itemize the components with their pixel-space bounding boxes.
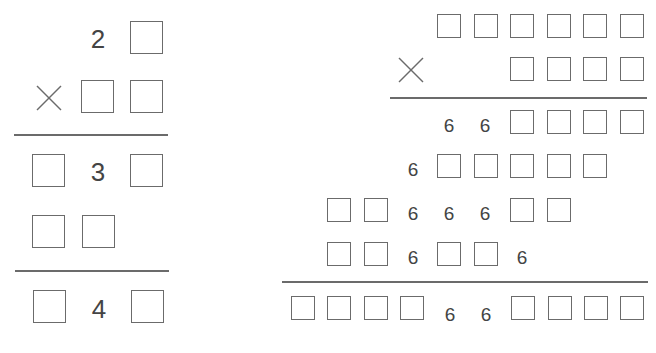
digit-6: 6 xyxy=(403,204,423,223)
digit-6: 6 xyxy=(475,204,495,223)
answer-box[interactable] xyxy=(327,242,351,266)
answer-box[interactable] xyxy=(437,242,461,266)
digit-2: 2 xyxy=(86,26,110,52)
answer-box[interactable] xyxy=(81,80,114,113)
answer-box[interactable] xyxy=(510,154,534,178)
answer-box[interactable] xyxy=(583,110,607,134)
answer-box[interactable] xyxy=(510,57,534,81)
answer-box[interactable] xyxy=(437,154,461,178)
digit-6: 6 xyxy=(476,305,496,324)
digit-6: 6 xyxy=(440,305,460,324)
answer-box[interactable] xyxy=(437,14,461,38)
digit-6: 6 xyxy=(512,248,532,267)
times-icon xyxy=(35,84,63,112)
answer-box[interactable] xyxy=(291,296,315,320)
answer-box[interactable] xyxy=(364,296,388,320)
answer-box[interactable] xyxy=(400,296,424,320)
digit-6: 6 xyxy=(439,204,459,223)
times-icon xyxy=(397,57,425,83)
answer-box[interactable] xyxy=(32,154,65,187)
divider-line xyxy=(15,270,169,272)
answer-box[interactable] xyxy=(547,110,571,134)
answer-box[interactable] xyxy=(131,290,164,323)
answer-box[interactable] xyxy=(583,14,607,38)
answer-box[interactable] xyxy=(327,198,351,222)
answer-box[interactable] xyxy=(548,296,572,320)
divider-line xyxy=(282,281,648,283)
digit-4: 4 xyxy=(87,296,111,322)
answer-box[interactable] xyxy=(82,215,115,248)
answer-box[interactable] xyxy=(474,14,498,38)
digit-6: 6 xyxy=(439,116,459,135)
divider-line xyxy=(390,97,647,99)
answer-box[interactable] xyxy=(33,290,66,323)
answer-box[interactable] xyxy=(547,57,571,81)
digit-6: 6 xyxy=(403,160,423,179)
answer-box[interactable] xyxy=(32,215,65,248)
answer-box[interactable] xyxy=(510,110,534,134)
answer-box[interactable] xyxy=(547,14,571,38)
answer-box[interactable] xyxy=(620,110,644,134)
answer-box[interactable] xyxy=(364,242,388,266)
answer-box[interactable] xyxy=(620,57,644,81)
answer-box[interactable] xyxy=(130,21,163,54)
answer-box[interactable] xyxy=(584,296,608,320)
answer-box[interactable] xyxy=(130,154,163,187)
answer-box[interactable] xyxy=(583,154,607,178)
answer-box[interactable] xyxy=(130,80,163,113)
answer-box[interactable] xyxy=(547,198,571,222)
answer-box[interactable] xyxy=(510,198,534,222)
digit-3: 3 xyxy=(86,159,110,185)
digit-6: 6 xyxy=(403,248,423,267)
answer-box[interactable] xyxy=(364,198,388,222)
answer-box[interactable] xyxy=(620,14,644,38)
answer-box[interactable] xyxy=(474,154,498,178)
answer-box[interactable] xyxy=(547,154,571,178)
answer-box[interactable] xyxy=(474,242,498,266)
answer-box[interactable] xyxy=(327,296,351,320)
answer-box[interactable] xyxy=(583,57,607,81)
answer-box[interactable] xyxy=(510,14,534,38)
divider-line xyxy=(14,134,168,136)
answer-box[interactable] xyxy=(620,296,644,320)
digit-6: 6 xyxy=(475,116,495,135)
answer-box[interactable] xyxy=(511,296,535,320)
